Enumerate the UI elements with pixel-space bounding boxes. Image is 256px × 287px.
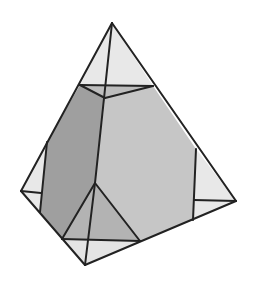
- corner-top: [80, 23, 153, 86]
- right-tri-horizontal: [194, 200, 236, 201]
- top-tri-back: [80, 85, 153, 86]
- tetrahedron-diagram: [0, 0, 256, 287]
